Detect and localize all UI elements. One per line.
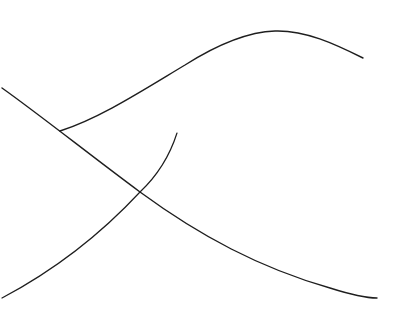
upper-wave-stroke bbox=[60, 31, 363, 131]
lower-arc-stroke bbox=[2, 133, 177, 298]
line-drawing bbox=[0, 0, 409, 332]
long-diagonal-stroke bbox=[2, 88, 377, 298]
drawing-canvas bbox=[0, 0, 409, 332]
